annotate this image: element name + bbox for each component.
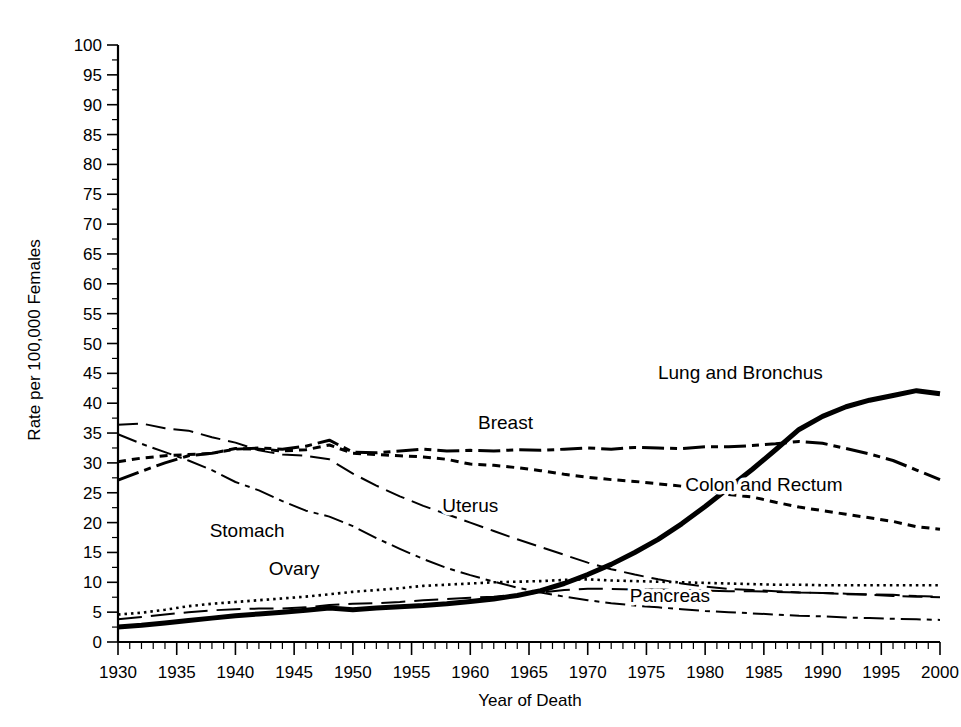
y-tick-label: 15 xyxy=(83,543,102,562)
y-tick-label: 40 xyxy=(83,394,102,413)
x-tick-label: 1985 xyxy=(745,663,783,682)
series-label-pancreas: Pancreas xyxy=(630,585,710,606)
x-tick-label: 1950 xyxy=(334,663,372,682)
series-label-breast: Breast xyxy=(478,412,534,433)
y-tick-label: 70 xyxy=(83,215,102,234)
y-tick-label: 50 xyxy=(83,335,102,354)
y-tick-label: 55 xyxy=(83,305,102,324)
x-axis: 1930193519401945195019551960196519701975… xyxy=(99,642,959,682)
y-tick-label: 5 xyxy=(93,603,102,622)
y-tick-label: 20 xyxy=(83,514,102,533)
y-tick-label: 85 xyxy=(83,126,102,145)
series-label-lung-and-bronchus: Lung and Bronchus xyxy=(658,362,823,383)
x-tick-label: 1935 xyxy=(158,663,196,682)
x-tick-label: 1960 xyxy=(451,663,489,682)
y-tick-label: 25 xyxy=(83,484,102,503)
x-tick-label: 1930 xyxy=(99,663,137,682)
y-axis: 0510152025303540455055606570758085909510… xyxy=(74,36,118,652)
series-label-colon-and-rectum: Colon and Rectum xyxy=(685,474,842,495)
y-tick-label: 0 xyxy=(93,633,102,652)
y-tick-label: 75 xyxy=(83,185,102,204)
y-axis-title: Rate per 100,000 Females xyxy=(25,239,44,440)
x-tick-label: 2000 xyxy=(921,663,959,682)
y-tick-label: 10 xyxy=(83,573,102,592)
series-label-ovary: Ovary xyxy=(269,558,320,579)
x-tick-label: 1990 xyxy=(804,663,842,682)
x-tick-label: 1965 xyxy=(510,663,548,682)
series-line-ovary xyxy=(118,579,940,614)
x-tick-label: 1970 xyxy=(569,663,607,682)
y-tick-label: 90 xyxy=(83,96,102,115)
y-tick-label: 65 xyxy=(83,245,102,264)
y-tick-label: 100 xyxy=(74,36,102,55)
y-tick-label: 95 xyxy=(83,66,102,85)
chart-container: 0510152025303540455055606570758085909510… xyxy=(0,0,961,727)
x-tick-label: 1940 xyxy=(217,663,255,682)
x-axis-title: Year of Death xyxy=(478,691,581,710)
x-tick-label: 1955 xyxy=(393,663,431,682)
series-label-uterus: Uterus xyxy=(442,495,498,516)
x-tick-label: 1945 xyxy=(275,663,313,682)
mortality-rate-line-chart: 0510152025303540455055606570758085909510… xyxy=(0,0,961,727)
series-inline-labels: Lung and BronchusLung and BronchusBreast… xyxy=(210,362,843,606)
y-tick-label: 80 xyxy=(83,155,102,174)
series-label-stomach: Stomach xyxy=(210,520,285,541)
y-tick-label: 60 xyxy=(83,275,102,294)
x-tick-label: 1995 xyxy=(862,663,900,682)
y-tick-label: 45 xyxy=(83,364,102,383)
y-tick-label: 35 xyxy=(83,424,102,443)
x-tick-label: 1980 xyxy=(686,663,724,682)
y-tick-label: 30 xyxy=(83,454,102,473)
x-tick-label: 1975 xyxy=(628,663,666,682)
